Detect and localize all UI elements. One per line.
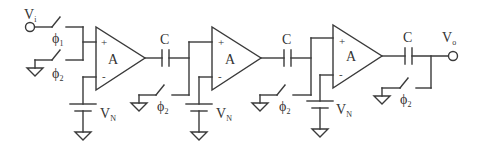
svg-text:ϕ1: ϕ1 <box>52 31 63 48</box>
switch-phi2-ground-stage3: ϕ2 <box>252 85 311 116</box>
switch-phi2-output: ϕ2 <box>374 56 431 109</box>
svg-text:VN: VN <box>336 102 352 119</box>
svg-text:ϕ2: ϕ2 <box>157 99 168 116</box>
amplifier-1: + - A <box>96 27 145 90</box>
svg-text:Vo: Vo <box>442 30 456 47</box>
noise-source-3: VN <box>307 75 352 137</box>
capacitor-3: C <box>403 30 412 64</box>
ground-icon <box>312 129 328 137</box>
noise-source-1: VN <box>70 77 116 140</box>
svg-text:-: - <box>218 70 222 82</box>
svg-text:C: C <box>160 32 169 47</box>
svg-text:VN: VN <box>100 106 116 123</box>
svg-text:ϕ2: ϕ2 <box>52 66 63 83</box>
ground-icon <box>191 132 207 140</box>
switch-phi1: ϕ1 <box>35 17 83 48</box>
ground-icon <box>27 68 43 76</box>
svg-text:+: + <box>339 35 345 47</box>
svg-text:-: - <box>339 68 343 80</box>
svg-text:Vi: Vi <box>24 7 37 24</box>
svg-text:ϕ2: ϕ2 <box>400 92 411 109</box>
ground-icon <box>131 103 147 111</box>
ground-icon <box>252 103 268 111</box>
input-terminal: Vi <box>24 7 37 32</box>
svg-text:VN: VN <box>216 106 232 123</box>
capacitor-2: C <box>282 32 291 66</box>
svg-text:A: A <box>108 52 119 67</box>
capacitor-1: C <box>160 32 169 66</box>
svg-text:+: + <box>218 36 224 48</box>
svg-text:C: C <box>403 30 412 45</box>
amplifier-2: + - A <box>212 27 261 90</box>
switch-phi2-ground-1: ϕ2 <box>27 50 83 83</box>
ground-icon <box>75 132 91 140</box>
circuit-diagram: Vi ϕ1 ϕ2 + - A VN C <box>0 0 481 153</box>
amplifier-3: + - A <box>333 25 382 88</box>
svg-text:A: A <box>225 52 236 67</box>
noise-source-2: VN <box>186 77 232 140</box>
svg-text:ϕ2: ϕ2 <box>279 99 290 116</box>
svg-text:A: A <box>346 49 357 64</box>
ground-icon <box>374 96 390 104</box>
svg-text:+: + <box>101 36 107 48</box>
svg-text:-: - <box>102 70 106 82</box>
svg-text:C: C <box>282 32 291 47</box>
switch-phi2-ground-stage2: ϕ2 <box>131 85 189 116</box>
